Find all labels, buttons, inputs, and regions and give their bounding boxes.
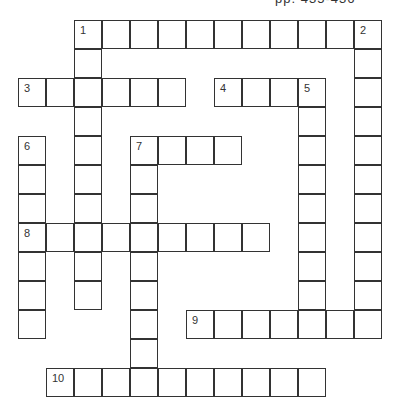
crossword-cell[interactable]	[18, 165, 46, 194]
crossword-cell[interactable]	[354, 223, 382, 252]
crossword-cell[interactable]	[298, 20, 326, 49]
crossword-cell[interactable]	[158, 20, 186, 49]
crossword-cell[interactable]	[298, 136, 326, 165]
crossword-cell[interactable]	[354, 310, 382, 339]
crossword-cell[interactable]	[242, 78, 270, 107]
crossword-cell[interactable]	[298, 310, 326, 339]
crossword-cell[interactable]	[130, 310, 158, 339]
crossword-cell[interactable]	[354, 281, 382, 310]
crossword-cell[interactable]	[46, 78, 74, 107]
crossword-cell[interactable]	[74, 252, 102, 281]
crossword-cell[interactable]	[354, 78, 382, 107]
crossword-cell[interactable]	[102, 20, 130, 49]
crossword-cell[interactable]	[130, 78, 158, 107]
crossword-cell[interactable]	[74, 78, 102, 107]
crossword-cell[interactable]	[158, 223, 186, 252]
crossword-cell[interactable]	[270, 310, 298, 339]
crossword-cell[interactable]	[186, 223, 214, 252]
crossword-cell[interactable]	[186, 20, 214, 49]
crossword-cell[interactable]	[214, 223, 242, 252]
crossword-cell[interactable]	[270, 20, 298, 49]
crossword-cell[interactable]	[74, 49, 102, 78]
crossword-cell[interactable]: 3	[18, 78, 46, 107]
crossword-cell[interactable]	[130, 339, 158, 368]
crossword-cell[interactable]	[130, 281, 158, 310]
crossword-cell[interactable]	[18, 281, 46, 310]
crossword-cell[interactable]	[74, 223, 102, 252]
crossword-cell[interactable]	[298, 281, 326, 310]
crossword-cell[interactable]	[242, 223, 270, 252]
crossword-cell[interactable]: 4	[214, 78, 242, 107]
clue-number: 4	[220, 83, 226, 94]
crossword-cell[interactable]	[74, 165, 102, 194]
crossword-cell[interactable]	[130, 165, 158, 194]
crossword-cell[interactable]	[74, 368, 102, 397]
crossword-cell[interactable]	[214, 20, 242, 49]
clue-number: 7	[136, 141, 142, 152]
crossword-cell[interactable]	[130, 223, 158, 252]
clue-number: 1	[80, 25, 86, 36]
crossword-cell[interactable]	[102, 223, 130, 252]
crossword-cell[interactable]: 7	[130, 136, 158, 165]
crossword-cell[interactable]: 9	[186, 310, 214, 339]
clue-number: 5	[304, 83, 310, 94]
crossword-cell[interactable]	[298, 368, 326, 397]
clue-number: 10	[52, 373, 64, 384]
crossword-cell[interactable]	[242, 368, 270, 397]
crossword-cell[interactable]	[214, 368, 242, 397]
crossword-cell[interactable]	[158, 368, 186, 397]
crossword-cell[interactable]	[18, 252, 46, 281]
crossword-cell[interactable]	[102, 78, 130, 107]
crossword-cell[interactable]: 5	[298, 78, 326, 107]
crossword-cell[interactable]	[158, 78, 186, 107]
crossword-cell[interactable]	[354, 136, 382, 165]
clue-number: 8	[24, 228, 30, 239]
crossword-cell[interactable]	[214, 136, 242, 165]
crossword-cell[interactable]	[102, 368, 130, 397]
crossword-cell[interactable]	[130, 368, 158, 397]
clue-number: 3	[24, 83, 30, 94]
crossword-cell[interactable]	[74, 194, 102, 223]
crossword-cell[interactable]	[270, 368, 298, 397]
crossword-cell[interactable]	[354, 194, 382, 223]
clue-number: 6	[24, 141, 30, 152]
crossword-cell[interactable]	[18, 194, 46, 223]
crossword-cell[interactable]: 10	[46, 368, 74, 397]
crossword-cell[interactable]	[242, 310, 270, 339]
crossword-cell[interactable]	[214, 310, 242, 339]
crossword-cell[interactable]	[326, 310, 354, 339]
crossword-cell[interactable]	[46, 223, 74, 252]
crossword-cell[interactable]	[354, 107, 382, 136]
crossword-cell[interactable]	[186, 368, 214, 397]
crossword-cell[interactable]	[186, 136, 214, 165]
crossword-cell[interactable]	[298, 165, 326, 194]
crossword-cell[interactable]	[130, 252, 158, 281]
crossword-cell[interactable]	[130, 20, 158, 49]
crossword-cell[interactable]: 2	[354, 20, 382, 49]
crossword-cell[interactable]: 8	[18, 223, 46, 252]
crossword-cell[interactable]	[74, 281, 102, 310]
crossword-cell[interactable]	[354, 165, 382, 194]
crossword-cell[interactable]	[74, 107, 102, 136]
crossword-cell[interactable]	[242, 20, 270, 49]
crossword-grid: 12345687910	[0, 0, 399, 412]
crossword-cell[interactable]	[298, 223, 326, 252]
crossword-cell[interactable]	[354, 252, 382, 281]
crossword-cell[interactable]	[18, 310, 46, 339]
crossword-cell[interactable]	[298, 107, 326, 136]
crossword-cell[interactable]	[270, 78, 298, 107]
clue-number: 2	[360, 25, 366, 36]
crossword-cell[interactable]	[130, 194, 158, 223]
crossword-cell[interactable]	[326, 20, 354, 49]
crossword-cell[interactable]	[298, 252, 326, 281]
crossword-cell[interactable]	[74, 136, 102, 165]
crossword-cell[interactable]: 1	[74, 20, 102, 49]
crossword-cell[interactable]	[298, 194, 326, 223]
crossword-cell[interactable]: 6	[18, 136, 46, 165]
crossword-cell[interactable]	[158, 136, 186, 165]
clue-number: 9	[192, 315, 198, 326]
crossword-cell[interactable]	[354, 49, 382, 78]
